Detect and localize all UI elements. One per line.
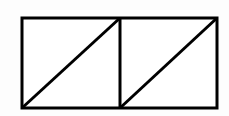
geometric-figure [0,0,229,116]
figure-canvas [0,0,229,116]
